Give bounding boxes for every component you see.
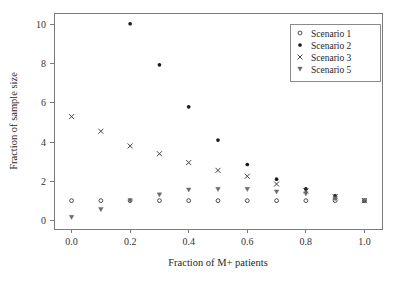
data-point	[187, 105, 191, 109]
x-tick-label: 0.0	[65, 236, 78, 247]
data-point	[245, 187, 250, 191]
legend-label-1: Scenario 1	[311, 29, 352, 39]
data-point	[304, 199, 308, 203]
data-point	[128, 22, 132, 26]
x-tick-label: 0.2	[124, 236, 137, 247]
data-point	[99, 199, 103, 203]
y-tick-label: 8	[41, 58, 46, 69]
series-scenario-5	[69, 187, 366, 219]
x-tick-label: 0.4	[182, 236, 195, 247]
data-point	[157, 193, 162, 197]
x-tick-label: 0.6	[241, 236, 254, 247]
data-point	[245, 199, 249, 203]
scatter-plot-figure: 0.00.20.40.60.81.00246810 Scenario 1Scen…	[0, 0, 410, 292]
chart-canvas: 0.00.20.40.60.81.00246810 Scenario 1Scen…	[0, 0, 410, 292]
data-point	[216, 199, 220, 203]
x-tick-label: 1.0	[358, 236, 371, 247]
x-axis-title: Fraction of M+ patients	[168, 257, 268, 268]
data-point	[275, 199, 279, 203]
data-point	[158, 63, 162, 67]
data-point	[216, 187, 221, 191]
y-tick-label: 0	[41, 215, 46, 226]
y-tick-label: 6	[41, 97, 46, 108]
axis-titles-group: Fraction of M+ patientsFraction of sampl…	[8, 72, 268, 268]
data-point	[304, 192, 309, 196]
data-point	[274, 190, 279, 194]
legend-marker-2	[298, 43, 302, 47]
data-point	[70, 199, 74, 203]
data-point	[186, 188, 191, 192]
legend-label-3: Scenario 3	[311, 53, 352, 63]
y-tick-label: 2	[41, 176, 46, 187]
data-point	[245, 163, 249, 167]
data-point	[69, 215, 74, 219]
data-point	[187, 199, 191, 203]
data-point	[158, 199, 162, 203]
series-scenario-1	[70, 199, 367, 203]
data-point	[275, 177, 279, 181]
data-point	[99, 207, 104, 211]
legend-label-4: Scenario 5	[311, 65, 352, 75]
legend-label-2: Scenario 2	[311, 41, 352, 51]
data-point	[216, 138, 220, 142]
y-tick-label: 10	[36, 19, 46, 30]
chart-legend: Scenario 1Scenario 2Scenario 3Scenario 5	[290, 24, 380, 81]
x-tick-label: 0.8	[300, 236, 313, 247]
y-axis-title: Fraction of sample size	[8, 72, 19, 170]
y-tick-label: 4	[41, 137, 46, 148]
